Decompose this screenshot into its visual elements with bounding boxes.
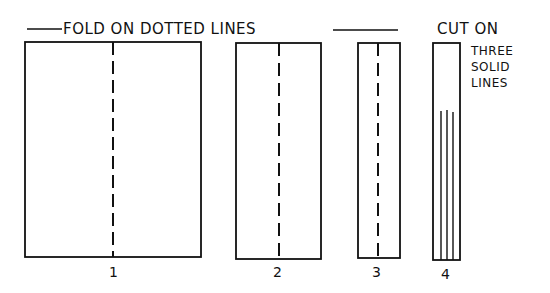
panel-2: 2 [236,43,321,280]
cut-word-solid: SOLID [471,60,510,74]
fold-title: FOLD ON DOTTED LINES [63,20,256,38]
cut-word-three: THREE [470,44,513,58]
panel-1: 1 [25,42,201,280]
panel-3-label: 3 [372,264,381,280]
panel-1-label: 1 [109,264,118,280]
panel-4-label: 4 [441,266,450,282]
folding-diagram: FOLD ON DOTTED LINES CUT ON THREE SOLID … [0,0,550,293]
cut-title: CUT ON [437,20,498,38]
panel-4: 4 [433,43,460,282]
panel-3: 3 [358,43,400,280]
panel-2-label: 2 [273,264,282,280]
cut-word-lines: LINES [471,76,508,90]
